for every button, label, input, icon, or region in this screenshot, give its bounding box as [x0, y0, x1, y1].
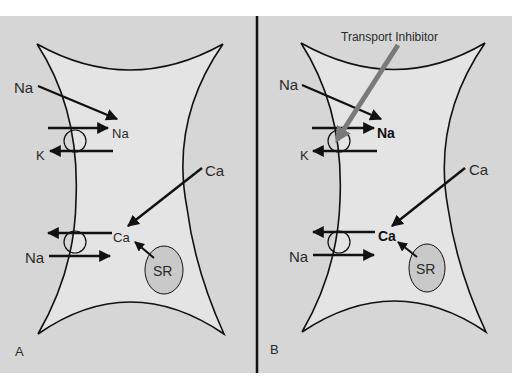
- label-na-outside-top: Na: [14, 79, 34, 96]
- label-sr: SR: [153, 263, 172, 279]
- label-na-outside-bottom: Na: [25, 249, 45, 266]
- label-ca-inside: Ca: [113, 230, 130, 245]
- panel-label-b: B: [270, 342, 279, 357]
- label-na-outside-top: Na: [279, 76, 299, 93]
- panel-b: Transport Inhibitor Na Na K Ca Ca Na SR …: [270, 30, 489, 357]
- label-k-outside: K: [36, 148, 45, 163]
- panel-label-a: A: [15, 344, 24, 359]
- label-k-outside: K: [300, 148, 309, 163]
- label-ca-inside: Ca: [378, 228, 396, 244]
- label-sr: SR: [416, 261, 435, 277]
- cell-outline: [301, 43, 486, 332]
- label-na-outside-bottom: Na: [289, 248, 309, 265]
- label-ca-outside: Ca: [205, 162, 225, 179]
- cell-transport-diagram: Na Na K Ca Ca Na SR A Transport Inhibito…: [0, 0, 524, 390]
- label-na-inside-top: Na: [377, 125, 395, 141]
- cell-outline: [37, 44, 224, 334]
- label-ca-outside: Ca: [469, 161, 489, 178]
- transport-inhibitor-label: Transport Inhibitor: [341, 30, 438, 44]
- label-na-inside-top: Na: [112, 126, 129, 141]
- panel-a: Na Na K Ca Ca Na SR A: [14, 44, 225, 359]
